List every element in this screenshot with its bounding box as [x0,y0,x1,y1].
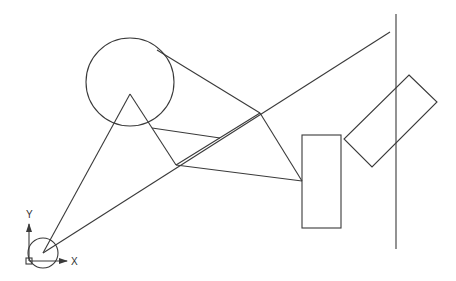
link-b-to-d[interactable] [260,113,302,181]
x-axis-arrow-icon [59,258,68,264]
ucs-icon: Y X [26,209,78,267]
link-a-to-b[interactable] [176,113,260,165]
y-axis-label: Y [26,209,33,220]
tangent-line[interactable] [157,50,260,113]
link-a-to-d[interactable] [176,165,302,181]
x-axis-label: X [71,256,78,267]
long-diagonal-line[interactable] [43,32,390,253]
large-circle[interactable] [86,38,174,126]
rotated-rectangle[interactable] [344,75,437,167]
rectangle[interactable] [302,135,341,228]
drawing-canvas[interactable]: Y X [0,0,456,281]
link-origin-to-apex[interactable] [43,94,130,253]
y-axis-arrow-icon [26,223,32,232]
link-circle-to-c[interactable] [152,128,220,138]
link-apex-to-a[interactable] [130,94,176,165]
